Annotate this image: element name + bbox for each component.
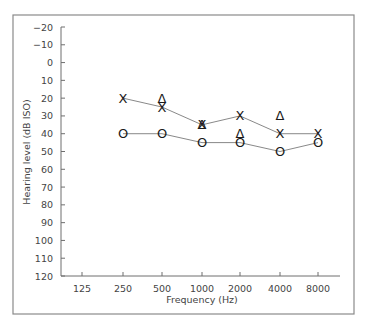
y-tick-label: 60: [41, 164, 53, 175]
x-tick-label: 4000: [268, 283, 292, 294]
series-o: OOOOOO: [118, 126, 323, 159]
series-line: [123, 134, 318, 152]
series-line: [123, 98, 318, 134]
y-axis: −20−100102030405060708090100110120: [33, 22, 65, 282]
y-tick-label: 0: [47, 57, 53, 68]
triangle-marker-icon: Δ: [236, 126, 245, 141]
y-tick-label: 70: [41, 182, 53, 193]
triangle-marker-icon: Δ: [158, 91, 167, 106]
y-tick-label: 10: [41, 75, 53, 86]
x-axis-title: Frequency (Hz): [166, 294, 238, 305]
y-tick-label: 80: [41, 199, 53, 210]
chart-frame: [13, 15, 354, 314]
x-tick-label: 1000: [190, 283, 214, 294]
data-series: XXXXXXOOOOOOΔΔΔΔ: [118, 91, 323, 159]
x-tick-label: 500: [153, 283, 171, 294]
y-tick-label: 30: [41, 110, 53, 121]
x-tick-label: 8000: [306, 283, 330, 294]
o-marker-icon: O: [157, 126, 167, 141]
x-tick-label: 2000: [228, 283, 252, 294]
audiogram-chart: −20−100102030405060708090100110120 12525…: [0, 0, 366, 326]
x-tick-label: 125: [73, 283, 91, 294]
y-tick-label: 100: [35, 235, 53, 246]
o-marker-icon: O: [197, 135, 207, 150]
o-marker-icon: O: [118, 126, 128, 141]
y-tick-label: 110: [35, 253, 53, 264]
y-tick-label: −10: [33, 39, 53, 50]
x-marker-icon: X: [236, 108, 245, 123]
x-tick-label: 250: [114, 283, 132, 294]
y-tick-label: 40: [41, 128, 53, 139]
o-marker-icon: O: [313, 135, 323, 150]
y-tick-label: −20: [33, 22, 53, 33]
series-triangle: ΔΔΔΔ: [158, 91, 285, 142]
x-axis: 1252505001000200040008000: [61, 272, 340, 294]
y-axis-title: Hearing level (dB ISO): [21, 99, 32, 204]
y-tick-label: 120: [35, 271, 53, 282]
x-marker-icon: X: [119, 91, 128, 106]
o-marker-icon: O: [275, 144, 285, 159]
x-marker-icon: X: [276, 126, 285, 141]
y-tick-label: 90: [41, 217, 53, 228]
triangle-marker-icon: Δ: [198, 117, 207, 132]
triangle-marker-icon: Δ: [276, 108, 285, 123]
y-tick-label: 20: [41, 93, 53, 104]
y-tick-label: 50: [41, 146, 53, 157]
